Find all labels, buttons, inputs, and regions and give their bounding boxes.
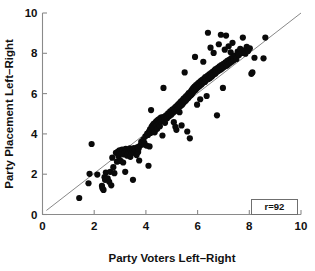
x-tick-label: 0 — [39, 220, 45, 232]
data-point — [178, 122, 184, 128]
data-point — [249, 69, 255, 75]
data-point — [159, 132, 165, 138]
data-point — [240, 34, 246, 40]
data-point — [247, 45, 253, 51]
data-point — [89, 141, 95, 147]
data-point — [120, 159, 126, 165]
data-point — [187, 135, 193, 141]
plot-canvas: 0246810 0246810 r=92 Party Voters Left–R… — [0, 0, 315, 271]
data-point — [197, 96, 203, 102]
data-point — [207, 45, 213, 51]
data-point — [108, 182, 114, 188]
data-point — [184, 128, 190, 134]
data-point — [262, 34, 268, 40]
data-point — [148, 107, 154, 113]
data-point — [85, 180, 91, 186]
data-point — [214, 112, 220, 118]
x-tick-label: 8 — [246, 220, 253, 232]
data-point — [86, 171, 92, 177]
data-point — [145, 163, 151, 169]
data-point — [110, 164, 116, 170]
data-point — [122, 169, 128, 175]
y-tick-label: 8 — [31, 47, 38, 59]
data-point — [200, 59, 206, 65]
data-point — [192, 54, 198, 60]
y-tick-label: 4 — [31, 128, 38, 140]
y-axis-title: Party Placement Left–Right — [3, 39, 15, 189]
data-point — [130, 177, 136, 183]
x-tick-label: 10 — [295, 220, 308, 232]
data-point — [223, 32, 229, 38]
data-point — [216, 41, 222, 47]
data-point — [136, 157, 142, 163]
data-point — [160, 85, 166, 91]
data-point — [111, 170, 117, 176]
x-tick-label: 6 — [194, 220, 200, 232]
x-tick-label: 4 — [143, 220, 150, 232]
data-point — [204, 93, 210, 99]
y-tick-label: 10 — [25, 7, 38, 19]
data-point — [146, 143, 152, 149]
data-point — [205, 30, 211, 36]
data-point — [173, 127, 179, 133]
y-axis-ticks: 0246810 — [25, 7, 47, 221]
data-point — [100, 187, 106, 193]
x-tick-label: 2 — [91, 220, 97, 232]
data-point — [76, 195, 82, 201]
scatter-plot-figure: 0246810 0246810 r=92 Party Voters Left–R… — [0, 0, 315, 271]
correlation-legend: r=92 — [252, 200, 298, 215]
y-tick-label: 0 — [31, 209, 37, 221]
data-point — [211, 50, 217, 56]
data-point — [229, 40, 235, 46]
data-point — [194, 102, 200, 108]
data-point — [260, 55, 266, 61]
y-tick-label: 2 — [31, 168, 37, 180]
data-points-group — [76, 30, 268, 201]
x-axis-title: Party Voters Left–Right — [109, 252, 236, 264]
y-tick-label: 6 — [31, 88, 37, 100]
correlation-value: r=92 — [265, 201, 285, 212]
data-point — [182, 69, 188, 75]
data-point — [220, 85, 226, 91]
data-point — [176, 109, 182, 115]
data-point — [251, 55, 257, 61]
data-point — [94, 172, 100, 178]
